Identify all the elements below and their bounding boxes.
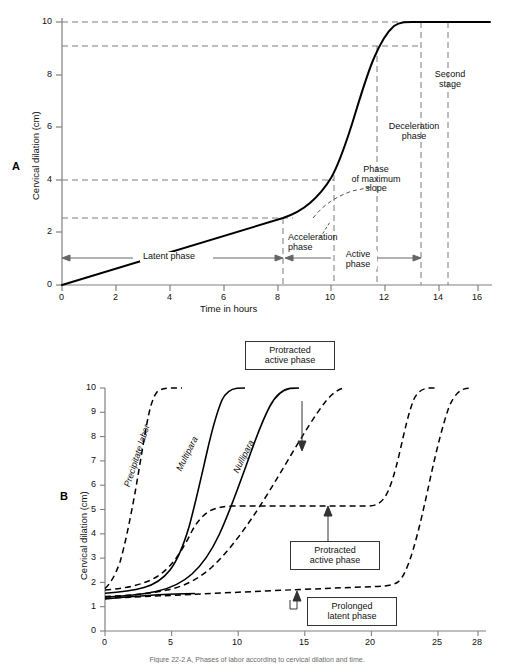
panel-b-chart bbox=[0, 355, 514, 655]
panel-a-xtick-12: 12 bbox=[379, 292, 389, 302]
panel-a-ytick-0: 0 bbox=[38, 279, 52, 289]
panel-b-callout-protracted-active-top: Protracted active phase bbox=[245, 341, 335, 370]
panel-a-xtick-10: 10 bbox=[325, 292, 335, 302]
panel-b-ytick-5: 5 bbox=[84, 504, 96, 514]
panel-b-x-ticks bbox=[105, 631, 478, 636]
panel-b-ytick-8: 8 bbox=[84, 431, 96, 441]
panel-a-deceleration-phase-label: Deceleration phase bbox=[381, 122, 447, 141]
panel-a-ytick-8: 8 bbox=[38, 69, 52, 79]
panel-a-active-phase-label: Active phase bbox=[339, 250, 377, 269]
panel-a-x-ticks bbox=[62, 285, 478, 291]
panel-b-y-ticks bbox=[100, 388, 105, 631]
panel-a-xtick-6: 6 bbox=[221, 292, 226, 302]
panel-a-second-stage-label: Second stage bbox=[424, 70, 476, 89]
panel-b-ytick-10: 10 bbox=[78, 382, 96, 392]
panel-a-ytick-6: 6 bbox=[38, 121, 52, 131]
panel-a-xtick-0: 0 bbox=[59, 292, 64, 302]
panel-b-xtick-25: 25 bbox=[432, 637, 442, 647]
panel-a-second-stage-line2: stage bbox=[424, 80, 476, 90]
panel-b-ytick-2: 2 bbox=[84, 577, 96, 587]
panel-b-curve-prolonged-latent bbox=[105, 388, 472, 598]
panel-b-ytick-6: 6 bbox=[84, 479, 96, 489]
panel-b-xtick-5: 5 bbox=[168, 637, 173, 647]
panel-b-callout-protracted-active-middle: Protracted active phase bbox=[290, 541, 380, 570]
panel-b-curve-multipara bbox=[105, 388, 245, 593]
panel-b-xtick-10: 10 bbox=[232, 637, 242, 647]
panel-a-xtick-16: 16 bbox=[472, 292, 482, 302]
panel-b-ytick-1: 1 bbox=[84, 601, 96, 611]
panel-a-chart bbox=[0, 0, 514, 320]
panel-b-callout-top-line1: Protracted bbox=[251, 345, 329, 355]
panel-b-callout-middle-line1: Protracted bbox=[296, 545, 374, 555]
panel-b-callout-bottom-line2: latent phase bbox=[313, 611, 391, 621]
panel-a-ytick-4: 4 bbox=[38, 174, 52, 184]
panel-b-ytick-7: 7 bbox=[84, 455, 96, 465]
panel-b-callout-arrow-bottom bbox=[290, 591, 301, 609]
panel-a-labor-curve bbox=[62, 22, 490, 285]
panel-a-phase-max-slope-line3: slope bbox=[340, 184, 412, 194]
panel-b-ytick-4: 4 bbox=[84, 528, 96, 538]
panel-b-callout-arrow-top bbox=[298, 401, 306, 451]
figure-container: A Cervical dilation (cm) Time in hours bbox=[0, 0, 514, 665]
panel-b-callout-top-line2: active phase bbox=[251, 355, 329, 365]
panel-a-latent-phase-label: Latent phase bbox=[140, 252, 198, 262]
figure-caption: Figure 22-2 A, Phases of labor according… bbox=[0, 656, 514, 663]
panel-a-ytick-10: 10 bbox=[32, 16, 52, 26]
panel-b-xtick-15: 15 bbox=[299, 637, 309, 647]
panel-a-active-phase-line2: phase bbox=[339, 260, 377, 270]
panel-a-xtick-2: 2 bbox=[113, 292, 118, 302]
panel-a-deceleration-phase-line2: phase bbox=[381, 132, 447, 142]
panel-b-xtick-20: 20 bbox=[365, 637, 375, 647]
panel-b-curve-precipitate-labor bbox=[105, 388, 182, 589]
panel-a-xtick-8: 8 bbox=[275, 292, 280, 302]
panel-b-xtick-28: 28 bbox=[472, 637, 482, 647]
panel-b-curve-nullipara bbox=[105, 388, 299, 597]
panel-b-callout-bottom-line1: Prolonged bbox=[313, 601, 391, 611]
panel-b-callout-middle-line2: active phase bbox=[296, 555, 374, 565]
panel-b-callout-prolonged-latent: Prolonged latent phase bbox=[307, 597, 397, 626]
panel-a-ytick-2: 2 bbox=[38, 226, 52, 236]
panel-a-acceleration-phase-line2: phase bbox=[288, 243, 338, 253]
panel-a-phase-max-slope-label: Phase of maximum slope bbox=[340, 165, 412, 194]
panel-b-callout-arrow-middle bbox=[324, 506, 332, 541]
panel-a-y-ticks bbox=[56, 22, 62, 285]
panel-b-xtick-0: 0 bbox=[102, 637, 107, 647]
panel-b-ytick-0: 0 bbox=[84, 625, 96, 635]
panel-a-xtick-4: 4 bbox=[167, 292, 172, 302]
panel-b-ytick-3: 3 bbox=[84, 552, 96, 562]
panel-b-ytick-9: 9 bbox=[84, 406, 96, 416]
panel-a-xtick-14: 14 bbox=[433, 292, 443, 302]
panel-a-acceleration-phase-label: Acceleration phase bbox=[288, 233, 338, 252]
